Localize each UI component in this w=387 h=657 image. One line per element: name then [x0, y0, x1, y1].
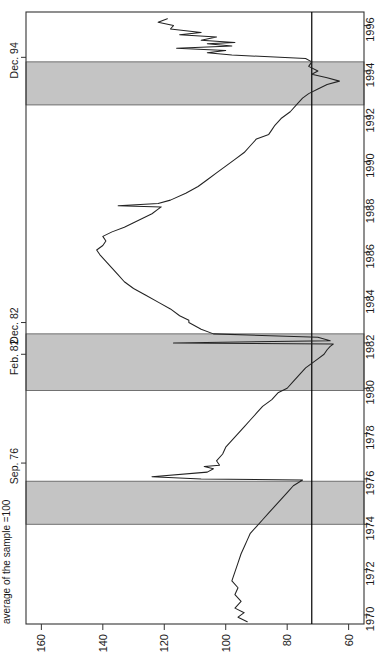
- time-axis-tick-label: 1984: [364, 289, 376, 313]
- time-axis-tick-label: 1992: [364, 108, 376, 132]
- time-axis-tick-label: 1988: [364, 199, 376, 223]
- annotation-dec-82: Dec. 82: [8, 307, 20, 343]
- annotation-feb-82: Feb. 82: [8, 339, 20, 375]
- annotation-sep-76: Sep. 76: [8, 448, 20, 484]
- value-axis-title: average of the sample =100: [1, 499, 12, 624]
- time-axis-tick-label: 1974: [364, 516, 376, 540]
- time-axis-tick-label: 1980: [364, 380, 376, 404]
- chart-figure: 1601401201008060 19701972197419761978198…: [0, 0, 387, 657]
- value-axis-tick-label: 100: [220, 634, 232, 652]
- value-axis-tick-label: 80: [281, 634, 293, 646]
- time-axis-tick-label: 1976: [364, 471, 376, 495]
- time-axis-tick-label: 1986: [364, 244, 376, 268]
- value-axis-tick-label: 160: [35, 634, 47, 652]
- rotated-line-chart: 1601401201008060 19701972197419761978198…: [0, 0, 387, 657]
- time-axis-tick-label: 1978: [364, 425, 376, 449]
- annotation-dec-94: Dec. 94: [8, 42, 20, 78]
- time-axis-tick-label: 1996: [364, 17, 376, 41]
- value-axis-title-group: average of the sample =100: [1, 499, 12, 624]
- value-axis-tick-label: 120: [158, 634, 170, 652]
- time-axis-tick-label: 1970: [364, 607, 376, 631]
- recession-band-1974-1975: [26, 481, 364, 524]
- value-axis-tick-label: 140: [97, 634, 109, 652]
- time-axis-tick-label: 1990: [364, 153, 376, 177]
- time-axis-tick-label: 1972: [364, 561, 376, 585]
- time-axis-tick-label: 1994: [364, 63, 376, 87]
- time-axis-tick-label: 1982: [364, 335, 376, 359]
- value-axis-tick-label: 60: [343, 634, 355, 646]
